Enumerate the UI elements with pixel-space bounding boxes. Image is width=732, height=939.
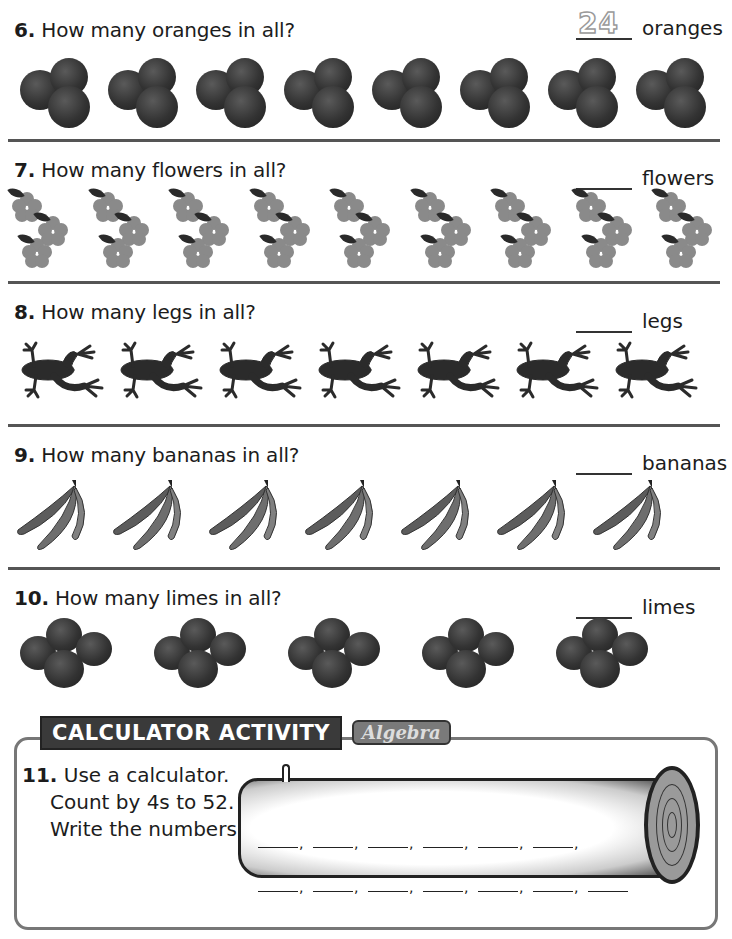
number-blank[interactable]: , (423, 882, 474, 892)
lime-group-icon (422, 618, 518, 692)
banana-bunch-icon (492, 476, 568, 552)
answer-10: limes (576, 593, 695, 619)
frog-icon (509, 340, 601, 400)
number-blanks-row-1: ,,,,,, (258, 838, 584, 848)
frog-icon (608, 340, 700, 400)
frog-icon (113, 340, 205, 400)
calculator-instructions: 11. Use a calculator. Count by 4s to 52.… (22, 762, 243, 843)
lime-group-icon (288, 618, 384, 692)
frog-icon (311, 340, 403, 400)
answer-10-unit: limes (642, 595, 695, 619)
calculator-activity-header: CALCULATOR ACTIVITY (40, 716, 342, 750)
answer-6-blank[interactable]: 24 (576, 14, 632, 40)
question-9-text: 9. How many bananas in all? (14, 443, 299, 467)
log-twig (282, 764, 290, 782)
question-8-text: 8. How many legs in all? (14, 300, 256, 324)
lime-group-icon (154, 618, 250, 692)
divider (8, 424, 720, 427)
number-blank[interactable]: , (313, 838, 364, 848)
frog-icon (410, 340, 502, 400)
banana-bunch-icon (588, 476, 664, 552)
answer-9-blank[interactable] (576, 449, 632, 475)
answer-8: legs (576, 307, 683, 333)
banana-bunch-icon (204, 476, 280, 552)
log-illustration: ,,,,,, ,,,,,, (228, 760, 706, 886)
flower-group-icon (169, 186, 239, 276)
answer-9: bananas (576, 449, 727, 475)
number-blank[interactable] (588, 882, 639, 892)
log-end-rings (644, 766, 700, 884)
flower-group-icon (491, 186, 561, 276)
flower-group-icon (652, 186, 722, 276)
number-blank[interactable]: , (313, 882, 364, 892)
answer-6-unit: oranges (642, 16, 723, 40)
banana-bunch-icon (396, 476, 472, 552)
banana-bunch-icon (300, 476, 376, 552)
flower-group-icon (330, 186, 400, 276)
orange-group-icon (284, 58, 364, 128)
lime-group-icon (20, 618, 116, 692)
orange-group-icon (460, 58, 540, 128)
number-blank[interactable]: , (478, 838, 529, 848)
lime-group-icon (556, 618, 652, 692)
number-blank[interactable]: , (533, 838, 584, 848)
answer-10-blank[interactable] (576, 593, 632, 619)
orange-group-icon (108, 58, 188, 128)
frog-icon (212, 340, 304, 400)
number-blank[interactable]: , (258, 838, 309, 848)
answer-9-unit: bananas (642, 451, 727, 475)
flower-group-icon (250, 186, 320, 276)
answer-6: 24 oranges (576, 14, 723, 40)
orange-group-icon (548, 58, 628, 128)
answer-8-blank[interactable] (576, 307, 632, 333)
number-blank[interactable]: , (423, 838, 474, 848)
question-7-text: 7. How many flowers in all? (14, 158, 286, 182)
number-blank[interactable]: , (478, 882, 529, 892)
number-blank[interactable]: , (258, 882, 309, 892)
number-blank[interactable]: , (368, 882, 419, 892)
divider (8, 281, 720, 284)
flower-group-icon (89, 186, 159, 276)
orange-group-icon (636, 58, 716, 128)
orange-group-icon (372, 58, 452, 128)
number-blanks-row-2: ,,,,,, (258, 882, 639, 892)
divider (8, 567, 720, 570)
flower-group-icon (411, 186, 481, 276)
number-blank[interactable]: , (368, 838, 419, 848)
algebra-tag: Algebra (352, 720, 451, 745)
question-6-text: 6. How many oranges in all? (14, 18, 295, 42)
frog-icon (14, 340, 106, 400)
divider (8, 139, 720, 142)
log-body (238, 778, 668, 878)
answer-6-traced-value: 24 (578, 10, 619, 38)
flower-group-icon (572, 186, 642, 276)
banana-bunch-icon (108, 476, 184, 552)
orange-group-icon (20, 58, 100, 128)
flower-group-icon (8, 186, 78, 276)
number-blank[interactable]: , (533, 882, 584, 892)
answer-8-unit: legs (642, 309, 683, 333)
banana-bunch-icon (12, 476, 88, 552)
question-10-text: 10. How many limes in all? (14, 586, 281, 610)
orange-group-icon (196, 58, 276, 128)
